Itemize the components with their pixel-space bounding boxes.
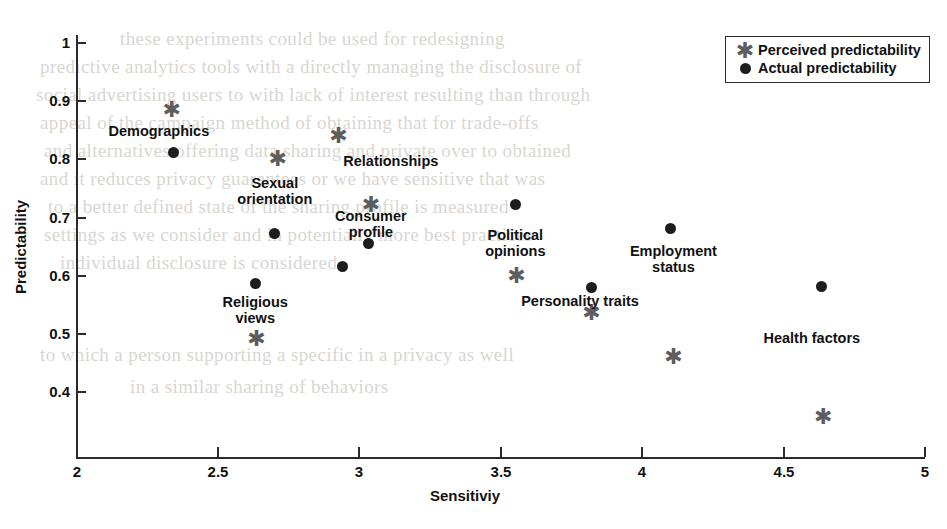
x-tick-label: 4 — [617, 463, 667, 480]
y-tick-label: 1 — [20, 34, 70, 51]
x-tick — [76, 447, 78, 457]
x-tick-label: 5 — [900, 463, 947, 480]
data-point-star: ✱ — [814, 406, 832, 428]
data-point-star: ✱ — [664, 346, 682, 368]
data-point-dot — [337, 261, 348, 272]
point-label: Personality traits — [521, 293, 639, 309]
chart-legend: ✱ Perceived predictability Actual predic… — [725, 36, 930, 83]
y-tick — [78, 333, 86, 335]
point-label: Employment status — [630, 243, 717, 275]
y-tick-label: 0.8 — [20, 150, 70, 167]
x-tick-label: 3 — [334, 463, 384, 480]
data-point-dot — [816, 281, 827, 292]
point-label: Health factors — [763, 330, 860, 346]
point-label: Consumer profile — [335, 208, 407, 240]
scatter-plot: 1 0.9 0.8 0.7 0.6 0.5 0.4 2 2.5 3 3.5 4 … — [0, 0, 947, 529]
x-tick — [358, 447, 360, 457]
x-axis-title: Sensitiviy — [430, 487, 500, 504]
y-tick — [78, 100, 86, 102]
x-tick — [783, 447, 785, 457]
y-tick — [78, 158, 86, 160]
point-label: Sexual orientation — [237, 175, 312, 207]
x-tick — [217, 447, 219, 457]
x-tick-label: 4.5 — [759, 463, 809, 480]
y-tick-label: 0.9 — [20, 92, 70, 109]
data-point-star: ✱ — [329, 125, 347, 147]
data-point-star: ✱ — [507, 265, 525, 287]
y-tick-label: 0.4 — [20, 383, 70, 400]
y-tick — [78, 391, 86, 393]
x-tick — [500, 447, 502, 457]
y-axis-line — [76, 35, 78, 459]
y-tick — [78, 42, 86, 44]
y-tick — [78, 275, 86, 277]
point-label: Political opinions — [485, 227, 545, 259]
data-point-star: ✱ — [162, 99, 180, 121]
x-tick-label: 3.5 — [476, 463, 526, 480]
data-point-star: ✱ — [247, 328, 265, 350]
data-point-star: ✱ — [268, 148, 286, 170]
data-point-dot — [250, 278, 261, 289]
legend-item-perceived: ✱ Perceived predictability — [732, 41, 923, 59]
x-tick — [924, 447, 926, 457]
y-tick — [78, 217, 86, 219]
y-axis-title: Predictability — [12, 200, 29, 294]
x-tick — [641, 447, 643, 457]
x-tick-label: 2 — [52, 463, 102, 480]
x-axis-line — [76, 457, 925, 459]
point-label: Demographics — [108, 123, 209, 139]
x-tick-label: 2.5 — [193, 463, 243, 480]
y-tick-label: 0.5 — [20, 325, 70, 342]
legend-star-marker-icon: ✱ — [732, 41, 758, 59]
legend-item-actual: Actual predictability — [732, 59, 923, 77]
point-label: Relationships — [343, 153, 438, 169]
legend-dot-marker-icon — [732, 59, 758, 77]
point-label: Religious views — [223, 294, 288, 326]
data-point-dot — [665, 223, 676, 234]
data-point-dot — [269, 228, 280, 239]
data-point-dot — [510, 199, 521, 210]
data-point-dot — [168, 147, 179, 158]
legend-label-perceived: Perceived predictability — [758, 42, 921, 58]
legend-label-actual: Actual predictability — [758, 60, 897, 76]
